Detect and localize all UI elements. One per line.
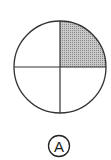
- fraction-diagram: A: [0, 0, 111, 160]
- option-label: A: [54, 138, 64, 155]
